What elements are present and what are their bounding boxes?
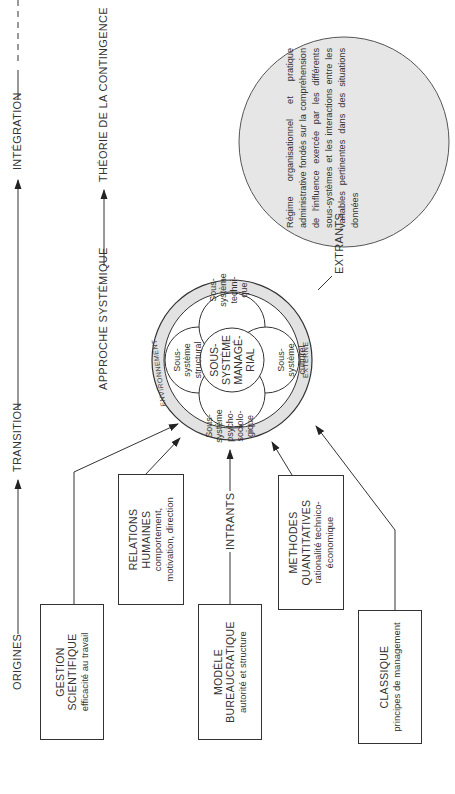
school-box-classique: CLASSIQUE principes de management [358, 610, 422, 744]
stage-transition: TRANSITION [11, 402, 23, 472]
managerial-subsystem: SOUS- SYSTÈME MANAGÉ- RIAL [208, 330, 256, 390]
systemic-approach-label: APPROCHE SYSTÉMIQUE [97, 247, 109, 390]
school-box-modele-bureaucratique: MODÈLE BUREAUCRATIQUE autorité et struct… [198, 604, 262, 740]
inputs-label: INTRANTS [224, 491, 236, 552]
diagram-stage: ORIGINES TRANSITION INTÉGRATION APPROCHE… [0, 0, 455, 794]
subsystem-culturel: Sous- système culturel [276, 332, 307, 388]
stage-origines: ORIGINES [11, 634, 23, 690]
subsystem-structural: Sous- système structural [172, 332, 203, 388]
school-box-gestion-scientifique: GESTION SCIENTIFIQUE efficacité au trava… [40, 604, 104, 740]
stage-integration: INTÉGRATION [11, 92, 23, 170]
school-box-relations-humaines: RELATIONS HUMAINES comportement, motivat… [118, 474, 184, 605]
subsystem-technique: Sous- système techni- que [208, 262, 249, 318]
subsystem-psychosociologique: Sous- système psycho- sociolo- gique [204, 398, 256, 454]
school-box-methodes-quantitatives: METHODES QUANTITATIVES rationalité techn… [278, 475, 344, 610]
contingency-theory-label: THÉORIE DE LA CONTINGENCE [97, 7, 109, 182]
contingency-description: Régime organisationnel et pratique admin… [284, 48, 362, 228]
outputs-leader-line [318, 276, 332, 290]
